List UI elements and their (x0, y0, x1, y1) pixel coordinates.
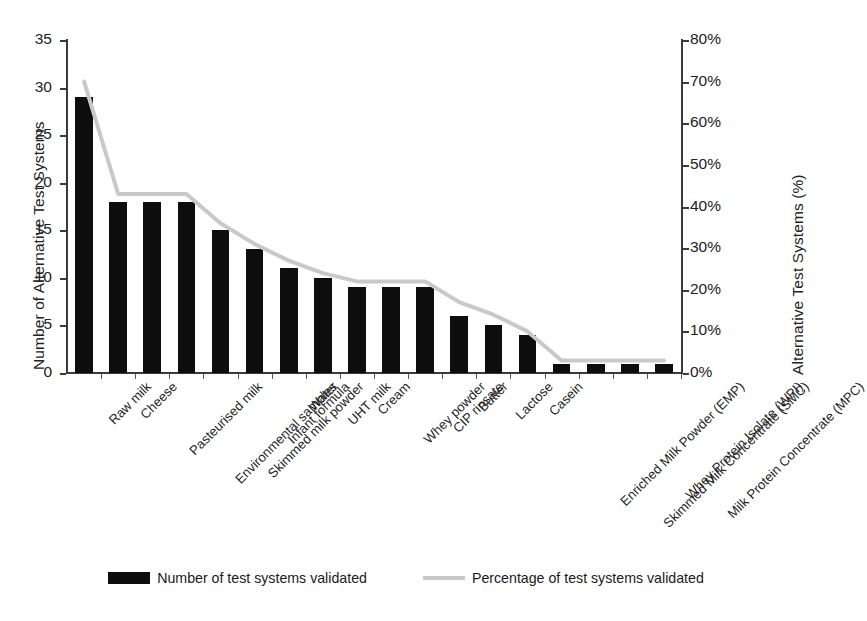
plot-area (67, 40, 681, 373)
x-axis-label: Skimmed milk powder (264, 379, 366, 481)
x-axis-label: Casein (546, 379, 586, 419)
y-tick-label-left: 5 (18, 315, 52, 333)
y-tick-mark-left (60, 88, 66, 90)
legend-bar-swatch (108, 572, 150, 584)
y-tick-mark-right (683, 331, 689, 333)
x-axis-label: Infant formula (284, 379, 352, 447)
y-tick-mark-left (60, 230, 66, 232)
y-tick-label-left: 10 (18, 268, 52, 286)
chart-legend: Number of test systems validated Percent… (0, 570, 812, 586)
x-tick-mark (101, 374, 102, 379)
x-tick-mark (442, 374, 443, 379)
x-tick-mark (238, 374, 239, 379)
y-tick-mark-left (60, 135, 66, 137)
y-tick-label-left: 30 (18, 78, 52, 96)
x-tick-mark (306, 374, 307, 379)
percentage-line (84, 82, 664, 361)
y-tick-label-left: 35 (18, 30, 52, 48)
y-tick-label-left: 15 (18, 220, 52, 238)
y-tick-mark-left (60, 40, 66, 42)
y-tick-label-right: 30% (690, 238, 738, 256)
y-tick-label-right: 0% (690, 363, 738, 381)
y-tick-mark-left (60, 373, 66, 375)
y-tick-label-left: 0 (18, 363, 52, 381)
x-tick-mark (545, 374, 546, 379)
y-tick-label-right: 80% (690, 30, 738, 48)
x-axis-label: Water (305, 379, 340, 414)
x-tick-mark (510, 374, 511, 379)
y-tick-mark-right (683, 373, 689, 375)
x-tick-mark (579, 374, 580, 379)
x-axis-label: Pasteurised milk (187, 379, 266, 458)
x-tick-mark (681, 374, 682, 379)
legend-item-bars: Number of test systems validated (108, 570, 367, 586)
line-series (67, 40, 681, 373)
x-tick-mark (476, 374, 477, 379)
legend-label-bars: Number of test systems validated (157, 570, 367, 586)
x-axis-label: Butter (476, 379, 511, 414)
legend-label-line: Percentage of test systems validated (472, 570, 704, 586)
x-axis-label: Cheese (137, 379, 180, 422)
x-axis-label: Whey powder (421, 379, 489, 447)
y-tick-mark-right (683, 165, 689, 167)
x-tick-mark (340, 374, 341, 379)
x-tick-mark (613, 374, 614, 379)
y-tick-mark-left (60, 183, 66, 185)
y-axis-title-right: Alternative Test Systems (%) (789, 174, 807, 375)
y-axis-ticks-right: 0%10%20%30%40%50%60%70%80% (690, 0, 738, 621)
y-tick-mark-right (683, 82, 689, 84)
x-tick-mark (272, 374, 273, 379)
y-tick-label-right: 50% (690, 155, 738, 173)
x-tick-mark (647, 374, 648, 379)
legend-item-line: Percentage of test systems validated (423, 570, 704, 586)
x-tick-mark (135, 374, 136, 379)
x-axis-label: Lactose (513, 379, 556, 422)
y-tick-label-right: 70% (690, 72, 738, 90)
x-axis-label: Milk Protein Concentrate (MPC) (724, 379, 866, 521)
y-tick-label-right: 20% (690, 280, 738, 298)
y-tick-mark-right (683, 123, 689, 125)
x-tick-mark (408, 374, 409, 379)
y-tick-mark-left (60, 325, 66, 327)
x-axis-label: Cream (375, 379, 414, 418)
x-axis-label: Environmental samples (233, 379, 341, 487)
y-tick-label-right: 40% (690, 197, 738, 215)
x-tick-mark (203, 374, 204, 379)
figure-caption (0, 608, 812, 621)
x-axis-label: CIP rinsate (450, 379, 507, 436)
y-tick-mark-left (60, 278, 66, 280)
x-tick-mark (169, 374, 170, 379)
y-tick-mark-right (683, 40, 689, 42)
y-tick-label-left: 25 (18, 125, 52, 143)
y-tick-mark-right (683, 290, 689, 292)
x-axis-label: Raw milk (106, 379, 154, 427)
y-tick-label-right: 60% (690, 113, 738, 131)
y-tick-label-right: 10% (690, 321, 738, 339)
y-tick-label-left: 20 (18, 173, 52, 191)
y-tick-mark-right (683, 207, 689, 209)
x-tick-mark (374, 374, 375, 379)
legend-line-swatch (423, 576, 465, 580)
x-axis-label: UHT milk (345, 379, 394, 428)
y-tick-mark-right (683, 248, 689, 250)
y-axis-ticks-left: 05101520253035 (18, 0, 52, 621)
